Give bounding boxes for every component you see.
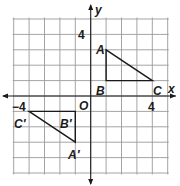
- labels: y x O 4 4 −4 A B C C′ B′ A′: [12, 3, 176, 162]
- coordinate-plane: y x O 4 4 −4 A B C C′ B′ A′: [0, 0, 180, 186]
- vertex-a-label: A: [95, 43, 105, 57]
- x-tick-neg4-label: −4: [12, 100, 26, 114]
- origin-label: O: [79, 99, 89, 113]
- vertex-c-prime-label: C′: [14, 117, 27, 131]
- x-axis-left-arrow-icon: [2, 94, 8, 99]
- x-tick-4-label: 4: [148, 100, 155, 114]
- y-tick-4-label: 4: [78, 28, 85, 42]
- vertex-a-prime-label: A′: [67, 148, 81, 162]
- vertex-c-label: C: [153, 84, 162, 98]
- y-axis-down-arrow-icon: [88, 179, 93, 185]
- vertex-b-label: B: [96, 84, 105, 98]
- y-axis-label: y: [94, 3, 103, 17]
- y-axis-up-arrow-icon: [88, 4, 93, 10]
- vertex-b-prime-label: B′: [60, 117, 73, 131]
- x-axis-label: x: [167, 82, 176, 96]
